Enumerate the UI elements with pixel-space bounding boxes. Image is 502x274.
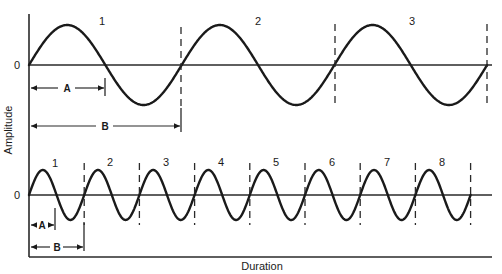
- bottom-cycle-label: 7: [384, 156, 390, 168]
- bottom-cycle-label: 6: [329, 156, 335, 168]
- bottom-cycle-label: 8: [439, 156, 445, 168]
- bottom-a-label: A: [38, 220, 45, 231]
- bottom-cycle-label: 5: [273, 156, 279, 168]
- top-panel: 0 1 2 3 A B: [14, 15, 492, 132]
- y-axis-label: Amplitude: [2, 106, 14, 155]
- bottom-zero-label: 0: [14, 189, 20, 201]
- bottom-cycle-label: 3: [163, 156, 169, 168]
- bottom-cycle-label: 2: [107, 156, 113, 168]
- top-cycle-label: 3: [409, 15, 415, 27]
- x-axis-label: Duration: [241, 260, 283, 272]
- waveform-diagram: Amplitude Duration 0 1 2 3 A B: [0, 0, 502, 274]
- top-zero-label: 0: [14, 59, 20, 71]
- bottom-panel: 0 1 2 3 4 5 6 7 8 A B: [14, 156, 492, 253]
- top-cycle-label: 1: [99, 15, 105, 27]
- top-b-label: B: [101, 121, 108, 132]
- bottom-cycle-label: 4: [218, 156, 224, 168]
- diagram-canvas: Amplitude Duration 0 1 2 3 A B: [0, 0, 502, 274]
- top-a-label: A: [63, 83, 70, 94]
- bottom-b-label: B: [53, 242, 60, 253]
- bottom-cycle-label: 1: [52, 157, 58, 169]
- top-cycle-label: 2: [255, 15, 261, 27]
